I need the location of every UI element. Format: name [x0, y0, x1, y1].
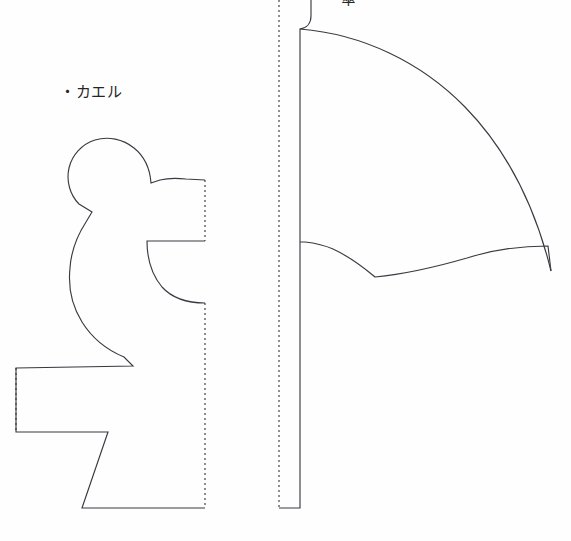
umbrella-canopy-scallop-cut-line: [300, 242, 551, 277]
umbrella-handle-cut-line: [300, 0, 311, 242]
umbrella-canopy-dome-cut-line: [300, 29, 551, 271]
frog-arm-notch-cut-line: [147, 241, 205, 303]
umbrella-pattern-label: ・傘: [325, 0, 356, 8]
umbrella-pattern-group: [279, 0, 551, 508]
pattern-template-page: ・カエル ・傘: [0, 0, 571, 541]
frog-outline-cut-line: [16, 138, 205, 508]
frog-pattern-label: ・カエル: [60, 84, 122, 101]
umbrella-handle-shaft-cut-line: [279, 242, 300, 508]
pattern-drawing-canvas: [0, 0, 571, 541]
frog-pattern-group: [16, 138, 205, 508]
